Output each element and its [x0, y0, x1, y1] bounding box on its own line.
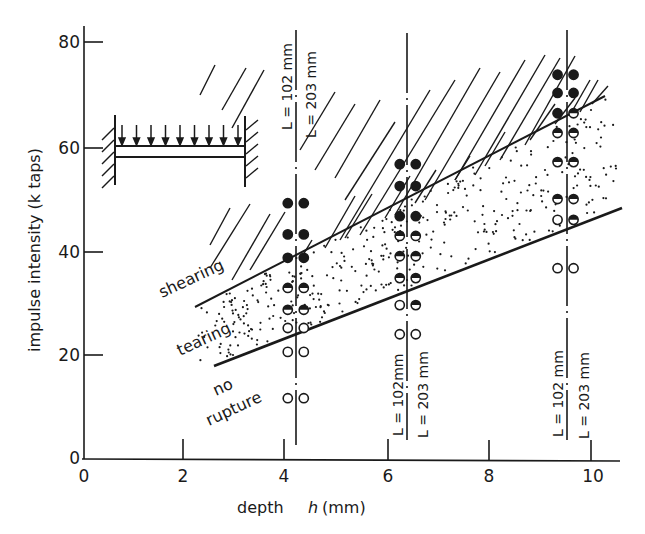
column-centerlines — [296, 30, 567, 445]
region-labels: shearing tearing no rupture — [156, 255, 265, 430]
x-tick-labels: 0 2 4 6 8 10 — [79, 466, 604, 486]
half-circle-marker — [299, 283, 308, 292]
L-label-col2-102: L = 102mm — [390, 354, 406, 436]
half-circle-marker — [569, 194, 578, 203]
x-tick-8: 8 — [484, 466, 495, 486]
half-circle-marker — [553, 128, 562, 137]
half-circle-marker — [395, 252, 404, 261]
x-tick-2: 2 — [178, 466, 189, 486]
half-circle-marker — [411, 252, 420, 261]
L-label-col3-203: L = 203 mm — [576, 352, 592, 439]
half-circle-marker — [411, 273, 420, 282]
L-label-col1-203: L = 203 mm — [303, 51, 319, 138]
half-circle-marker — [569, 215, 578, 224]
L-label-col2-203: L = 203 mm — [415, 351, 431, 438]
filled-circle-marker — [569, 88, 578, 97]
open-circle-marker — [411, 330, 420, 339]
half-circle-marker — [553, 158, 562, 167]
half-circle-marker — [411, 231, 420, 240]
open-circle-marker — [299, 347, 308, 356]
filled-circle-marker — [411, 181, 420, 190]
half-circle-marker — [395, 273, 404, 282]
filled-circle-marker — [553, 109, 562, 118]
L-labels: L = 102 mm L = 203 mm L = 102mm L = 203 … — [279, 43, 592, 439]
half-circle-marker — [569, 128, 578, 137]
filled-circle-marker — [283, 253, 292, 262]
half-circle-marker — [299, 305, 308, 314]
filled-circle-marker — [569, 70, 578, 79]
open-circle-marker — [283, 394, 292, 403]
filled-circle-marker — [411, 212, 420, 221]
open-circle-marker — [395, 301, 404, 310]
x-axis-title-prefix: depth — [237, 498, 284, 517]
filled-circle-marker — [553, 70, 562, 79]
filled-circle-marker — [395, 181, 404, 190]
filled-circle-marker — [299, 253, 308, 262]
region-label-tearing: tearing — [174, 318, 234, 359]
half-circle-marker — [411, 301, 420, 310]
y-tick-40: 40 — [58, 242, 80, 262]
y-tick-80: 80 — [58, 32, 80, 52]
y-axis-title: impulse intensity (k taps) — [25, 148, 44, 352]
y-tick-0: 0 — [69, 448, 80, 468]
y-tick-labels: 80 60 40 20 0 — [58, 32, 80, 468]
half-circle-marker — [569, 158, 578, 167]
open-circle-marker — [283, 347, 292, 356]
beam-inset-diagram — [102, 115, 258, 188]
filled-circle-marker — [283, 230, 292, 239]
open-circle-marker — [569, 264, 578, 273]
region-label-no: no — [210, 374, 236, 400]
half-circle-marker — [569, 109, 578, 118]
region-label-rupture: rupture — [203, 387, 265, 429]
filled-circle-marker — [299, 199, 308, 208]
x-axis-title-var: h — [308, 498, 318, 517]
x-axis-title-unit: (mm) — [322, 498, 366, 517]
filled-circle-marker — [553, 88, 562, 97]
open-circle-marker — [299, 323, 308, 332]
open-circle-marker — [299, 394, 308, 403]
open-circle-marker — [395, 330, 404, 339]
open-circle-marker — [553, 264, 562, 273]
region-label-shearing: shearing — [156, 255, 227, 302]
L-label-col1-102: L = 102 mm — [279, 43, 295, 130]
x-axis-title: depth h (mm) — [237, 498, 366, 517]
half-circle-marker — [283, 283, 292, 292]
half-circle-marker — [283, 305, 292, 314]
filled-circle-marker — [411, 160, 420, 169]
half-circle-marker — [553, 194, 562, 203]
filled-circle-marker — [395, 160, 404, 169]
y-tick-60: 60 — [58, 138, 80, 158]
x-tick-4: 4 — [279, 466, 290, 486]
filled-circle-marker — [299, 230, 308, 239]
open-circle-marker — [283, 323, 292, 332]
x-tick-0: 0 — [79, 466, 90, 486]
x-axis — [82, 439, 620, 461]
chart-canvas: 80 60 40 20 0 0 2 4 6 8 10 impulse inten… — [0, 0, 645, 534]
x-tick-10: 10 — [582, 466, 604, 486]
L-label-col3-102: L = 102 mm — [550, 350, 566, 437]
y-tick-20: 20 — [58, 345, 80, 365]
y-axis — [84, 26, 103, 459]
filled-circle-marker — [283, 199, 292, 208]
open-circle-marker — [553, 215, 562, 224]
half-circle-marker — [395, 231, 404, 240]
filled-circle-marker — [395, 212, 404, 221]
x-tick-6: 6 — [383, 466, 394, 486]
